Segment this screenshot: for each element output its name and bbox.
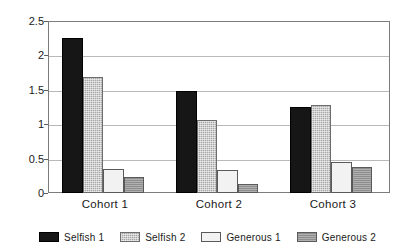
legend-item: Generous 1 [201, 232, 280, 243]
y-axis-tick-label: 1.5 [0, 84, 44, 96]
y-axis-tick-label: 2.5 [0, 15, 44, 27]
bar [197, 120, 218, 193]
y-axis-tick-label: 1 [0, 118, 44, 130]
bar [290, 107, 311, 193]
bar [124, 177, 145, 194]
legend-item: Selfish 2 [120, 232, 185, 243]
bar [238, 184, 259, 193]
bars-layer [48, 21, 390, 193]
chart-legend: Selfish 1Selfish 2Generous 1Generous 2 [0, 228, 415, 246]
legend-swatch-icon [201, 232, 221, 242]
bar [311, 105, 332, 193]
legend-swatch-icon [39, 232, 59, 242]
bar [331, 162, 352, 193]
bar [83, 77, 104, 193]
legend-label: Generous 2 [322, 232, 376, 243]
bar [103, 169, 124, 193]
legend-item: Selfish 1 [39, 232, 104, 243]
y-axis-tick-mark [44, 193, 48, 194]
legend-label: Selfish 1 [64, 232, 104, 243]
legend-label: Generous 1 [226, 232, 280, 243]
legend-item: Generous 2 [297, 232, 376, 243]
y-axis-tick-label: 0.5 [0, 153, 44, 165]
x-axis-category-label: Cohort 2 [196, 198, 243, 210]
bar [217, 170, 238, 193]
x-axis-category-label: Cohort 3 [310, 198, 357, 210]
legend-swatch-icon [120, 232, 140, 242]
y-axis-tick-label: 0 [0, 187, 44, 199]
bar-chart: 00.511.522.5 Cohort 1Cohort 2Cohort 3 Se… [0, 0, 415, 251]
x-axis-category-label: Cohort 1 [82, 198, 129, 210]
bar [352, 167, 373, 193]
legend-label: Selfish 2 [145, 232, 185, 243]
bar [62, 38, 83, 193]
bar [176, 91, 197, 193]
legend-swatch-icon [297, 232, 317, 242]
y-axis-tick-label: 2 [0, 49, 44, 61]
